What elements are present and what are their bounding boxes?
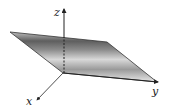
z-axis-label: z <box>53 6 60 19</box>
y-axis-label: y <box>151 85 159 98</box>
x-axis <box>37 73 63 100</box>
coordinate-diagram: z y x <box>0 0 169 112</box>
x-axis-label: x <box>26 95 33 108</box>
